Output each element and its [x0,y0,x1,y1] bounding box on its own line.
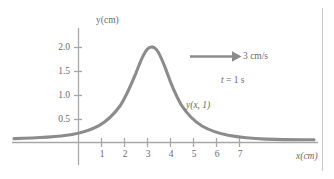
curve-arguments: (x, 1) [190,100,210,110]
time-value: = 1 s [224,75,245,85]
x-tick-label-6: 6 [210,150,224,160]
x-tick-label-4: 4 [164,150,178,160]
x-tick-label-3: 3 [141,150,155,160]
x-tick-label-2: 2 [118,150,132,160]
y-tick-label-2-0: 2.0 [48,43,70,53]
wave-pulse-figure: 2.0 1.5 1.0 0.5 1 2 3 4 5 6 7 y(cm) x(cm… [0,0,334,179]
x-tick-label-5: 5 [187,150,201,160]
y-tick-label-1-0: 1.0 [48,91,70,101]
x-axis-title: x(cm) [296,152,318,162]
y-tick-label-0-5: 0.5 [48,115,70,125]
page-divider-line [322,8,323,171]
velocity-arrow-right-icon [190,51,242,62]
y-tick-label-1-5: 1.5 [48,67,70,77]
curve-function-label: y(x, 1) [186,101,210,111]
x-tick-label-1: 1 [95,150,109,160]
x-tick-label-7: 7 [233,150,247,160]
y-axis-title: y(cm) [96,16,119,26]
speed-annotation: 3 cm/s [243,52,268,62]
time-annotation: t = 1 s [221,76,245,86]
